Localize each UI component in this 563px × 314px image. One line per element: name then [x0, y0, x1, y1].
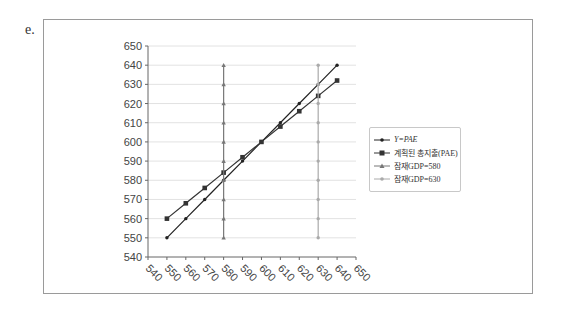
data-point-dot	[316, 217, 319, 220]
x-tick-label: 640	[333, 262, 354, 283]
data-point-dot	[316, 198, 319, 201]
legend-label: 잠재GDP=630	[394, 173, 441, 184]
data-point-dot	[335, 63, 338, 66]
legend-line-triangle-icon	[374, 162, 390, 170]
data-point-dot	[316, 159, 319, 162]
data-point-dot	[316, 63, 319, 66]
y-tick-label: 570	[124, 193, 142, 205]
legend-line-square-icon	[374, 149, 390, 157]
data-point-square	[259, 140, 264, 145]
y-tick-label: 630	[124, 78, 142, 90]
y-tick-label: 600	[124, 136, 142, 148]
data-point-dot	[184, 217, 187, 220]
legend-label: 계획된 총지출(PAE)	[394, 147, 458, 158]
data-point-dot	[316, 179, 319, 182]
data-point-dot	[316, 121, 319, 124]
x-tick-label: 630	[314, 262, 335, 283]
x-tick-label: 570	[200, 262, 221, 283]
legend-item-pae: 계획된 총지출(PAE)	[374, 146, 456, 159]
data-point-square	[297, 109, 302, 114]
series-line	[167, 81, 337, 219]
x-tick-label: 600	[257, 262, 278, 283]
y-tick-label: 590	[124, 155, 142, 167]
data-point-dot	[165, 236, 168, 239]
y-tick-label: 540	[124, 251, 142, 263]
data-point-square	[165, 216, 170, 221]
data-point-dot	[316, 83, 319, 86]
x-tick-label: 540	[144, 262, 165, 283]
legend-line-dot-icon	[374, 136, 390, 144]
data-point-square	[184, 201, 189, 206]
legend-label: Y=PAE	[394, 135, 417, 144]
y-tick-label: 640	[124, 59, 142, 71]
legend-item-gdp-580: 잠재GDP=580	[374, 159, 456, 172]
data-point-square	[202, 186, 207, 191]
x-tick-label: 610	[276, 262, 297, 283]
y-tick-label: 550	[124, 232, 142, 244]
legend-item-y-pae: Y=PAE	[374, 133, 456, 146]
x-tick-label: 580	[219, 262, 240, 283]
y-tick-label: 610	[124, 117, 142, 129]
legend-item-gdp-630: 잠재GDP=630	[374, 172, 456, 185]
x-tick-label: 620	[295, 262, 316, 283]
data-point-square	[335, 78, 340, 83]
line-chart: 5405505605705805906006106206306406505405…	[0, 0, 563, 314]
chart-legend: Y=PAE 계획된 총지출(PAE) 잠재GDP=580 잠재GDP=630	[369, 127, 461, 192]
legend-line-dot-icon	[374, 175, 390, 183]
y-tick-label: 580	[124, 174, 142, 186]
y-tick-label: 650	[124, 40, 142, 52]
x-tick-label: 560	[181, 262, 202, 283]
y-tick-label: 560	[124, 213, 142, 225]
data-point-dot	[203, 198, 206, 201]
series-line	[167, 65, 337, 238]
x-tick-label: 590	[238, 262, 259, 283]
data-point-dot	[241, 159, 244, 162]
data-point-dot	[298, 102, 301, 105]
data-point-dot	[279, 121, 282, 124]
legend-label: 잠재GDP=580	[394, 160, 441, 171]
data-point-dot	[316, 140, 319, 143]
data-point-dot	[316, 236, 319, 239]
data-point-square	[278, 124, 283, 129]
x-tick-label: 550	[162, 262, 183, 283]
x-tick-label: 650	[352, 262, 373, 283]
y-tick-label: 620	[124, 98, 142, 110]
data-point-dot	[316, 102, 319, 105]
data-point-square	[240, 155, 245, 160]
